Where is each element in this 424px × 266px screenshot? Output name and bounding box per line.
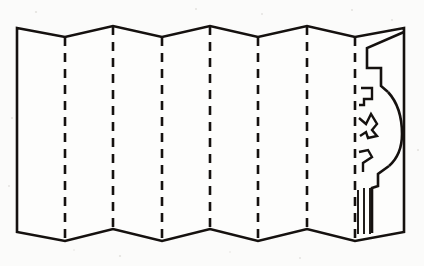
diagram-canvas: Accordion-folded paper strip with cuttin… [0,0,424,266]
speckle [8,185,10,187]
speckle [35,11,37,13]
speckle [417,149,419,151]
speckle [299,257,301,259]
speckle [195,8,197,10]
folded-paper-diagram: Accordion-folded paper strip with cuttin… [0,0,424,266]
speckle [119,255,121,257]
speckle [11,117,13,119]
speckle [73,249,75,251]
speckle [391,19,393,21]
speckle [229,251,231,253]
speckle [261,13,263,15]
speckle [351,9,353,11]
